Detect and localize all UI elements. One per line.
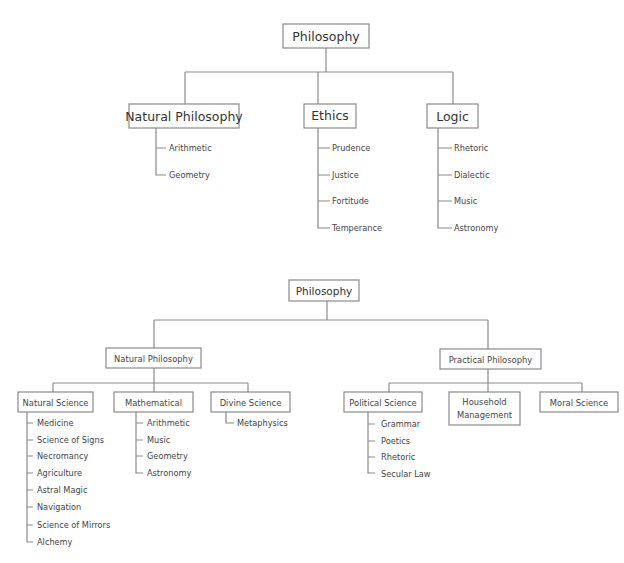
connector [226, 412, 234, 423]
leaf-item: Secular Law [381, 469, 431, 479]
leaf-item: Fortitude [332, 196, 369, 206]
connector [438, 128, 452, 228]
leaf-item: Poetics [381, 436, 410, 446]
leaf-item: Astronomy [454, 223, 498, 233]
node-divine-science: Divine Science Metaphysics [211, 392, 290, 428]
node-label-line-1: Household [462, 397, 506, 407]
leaf-item: Rhetoric [381, 452, 415, 462]
leaf-item: Dialectic [454, 170, 489, 180]
connector [318, 128, 330, 228]
node-natural-philosophy: Natural Philosophy [106, 348, 201, 368]
leaf-item: Prudence [332, 143, 370, 153]
node-ethics: Ethics Prudence Justice Fortitude Temper… [304, 104, 382, 233]
leaf-item: Necromancy [37, 451, 89, 461]
node-practical-philosophy: Practical Philosophy [440, 349, 541, 369]
node-logic: Logic Rhetoric Dialectic Music Astronomy [427, 104, 498, 233]
node-label: Ethics [311, 108, 349, 123]
top-tree: Philosophy Natural Philosophy Arithmetic… [125, 24, 498, 233]
node-label: Philosophy [296, 285, 353, 297]
node-label: Natural Science [22, 398, 88, 408]
leaf-item: Astronomy [147, 468, 191, 478]
node-label: Natural Philosophy [114, 354, 193, 364]
connector [156, 128, 166, 175]
leaf-item: Science of Mirrors [37, 520, 110, 530]
node-label: Moral Science [550, 398, 608, 408]
node-label: Philosophy [292, 29, 360, 44]
node-label: Divine Science [220, 398, 282, 408]
node-political-science: Political Science Grammar Poetics Rhetor… [344, 392, 431, 479]
leaf-item: Arithmetic [169, 143, 212, 153]
node-label: Practical Philosophy [449, 355, 533, 365]
node-natural-philosophy: Natural Philosophy Arithmetic Geometry [125, 104, 243, 180]
node-household-management: Household Management [449, 392, 520, 425]
node-root: Philosophy [289, 280, 359, 301]
leaf-item: Geometry [169, 170, 210, 180]
connector [136, 412, 143, 473]
leaf-item: Temperance [331, 223, 382, 233]
connector [368, 412, 375, 473]
leaf-item: Music [454, 196, 477, 206]
leaf-item: Geometry [147, 451, 188, 461]
node-root: Philosophy [283, 24, 369, 48]
node-moral-science: Moral Science [540, 392, 618, 412]
node-label: Natural Philosophy [125, 109, 243, 124]
leaf-item: Grammar [381, 419, 421, 429]
connector [27, 412, 33, 542]
leaf-item: Agriculture [37, 468, 82, 478]
leaf-item: Alchemy [37, 537, 73, 547]
leaf-item: Rhetoric [454, 143, 488, 153]
leaf-item: Metaphysics [237, 418, 288, 428]
bottom-tree: Philosophy Natural Philosophy Natural Sc… [18, 280, 618, 547]
leaf-item: Music [147, 435, 170, 445]
leaf-item: Medicine [37, 418, 74, 428]
leaf-item: Arithmetic [147, 418, 190, 428]
philosophy-diagrams: Philosophy Natural Philosophy Arithmetic… [0, 0, 624, 563]
node-label-line-2: Management [457, 410, 513, 420]
node-label: Mathematical [125, 398, 182, 408]
leaf-item: Navigation [37, 502, 81, 512]
node-label: Logic [436, 109, 469, 124]
leaf-item: Justice [331, 170, 359, 180]
node-natural-science: Natural Science Medicine Science of Sign… [18, 392, 110, 547]
node-mathematical: Mathematical Arithmetic Music Geometry A… [114, 392, 193, 478]
leaf-item: Astral Magic [37, 485, 87, 495]
leaf-item: Science of Signs [37, 435, 104, 445]
node-label: Political Science [349, 398, 416, 408]
